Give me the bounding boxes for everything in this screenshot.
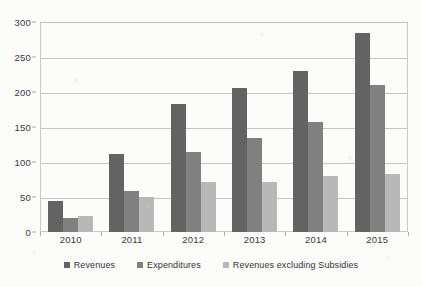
bar-chart: 050100150200250300 201020112012201320142… [0,0,422,287]
legend-label: Revenues excluding Subsidies [233,260,358,270]
y-tick-mark [32,57,36,58]
bars-layer [40,22,408,232]
legend-label: Expenditures [147,260,201,270]
bar-group-2015 [347,22,408,232]
bar-2010-revenues[interactable] [48,201,63,233]
legend-swatch-icon [223,262,229,268]
y-tick-label: 150 [15,122,31,133]
bar-group-2011 [101,22,162,232]
bar-2015-expenditures[interactable] [370,85,385,232]
y-tick-mark [32,22,36,23]
y-tick-label: 100 [15,157,31,168]
x-tick-mark [285,232,286,236]
y-tick-label: 0 [26,227,31,238]
y-tick-mark [32,197,36,198]
chart-legend: RevenuesExpendituresRevenues excluding S… [0,260,422,270]
bar-2011-revenues-excluding-subsidies[interactable] [139,197,154,232]
x-tick-mark [347,232,348,236]
x-tick-label-2010: 2010 [40,234,101,245]
bar-2014-expenditures[interactable] [308,122,323,232]
x-tick-mark [408,232,409,236]
x-tick-label-2015: 2015 [347,234,408,245]
bar-2013-expenditures[interactable] [247,138,262,232]
legend-item-revenues-excluding-subsidies[interactable]: Revenues excluding Subsidies [223,260,358,270]
bar-2010-expenditures[interactable] [63,218,78,232]
y-tick-mark [32,162,36,163]
bar-2012-revenues-excluding-subsidies[interactable] [201,182,216,232]
x-tick-label-2013: 2013 [224,234,285,245]
y-tick-label: 50 [20,192,31,203]
legend-label: Revenues [74,260,115,270]
bar-2013-revenues[interactable] [232,88,247,232]
y-tick-mark [32,127,36,128]
bar-2012-expenditures[interactable] [186,152,201,233]
y-tick-mark [32,232,36,233]
legend-item-revenues[interactable]: Revenues [64,260,115,270]
bar-2011-revenues[interactable] [109,154,124,232]
y-tick-label: 300 [15,17,31,28]
bar-group-2010 [40,22,101,232]
bar-group-2014 [285,22,346,232]
bar-2015-revenues-excluding-subsidies[interactable] [385,174,400,232]
y-tick-label: 250 [15,52,31,63]
bar-2014-revenues[interactable] [293,71,308,232]
bar-2013-revenues-excluding-subsidies[interactable] [262,182,277,232]
y-tick-label: 200 [15,87,31,98]
y-tick-mark [32,92,36,93]
bar-2011-expenditures[interactable] [124,191,139,232]
x-tick-mark [40,232,41,236]
x-tick-mark [101,232,102,236]
x-tick-mark [163,232,164,236]
x-tick-mark [224,232,225,236]
bar-2015-revenues[interactable] [355,33,370,233]
bar-group-2012 [163,22,224,232]
legend-swatch-icon [137,262,143,268]
bar-2012-revenues[interactable] [171,104,186,232]
x-tick-label-2011: 2011 [101,234,162,245]
legend-swatch-icon [64,262,70,268]
bar-group-2013 [224,22,285,232]
bar-2010-revenues-excluding-subsidies[interactable] [78,216,93,232]
legend-item-expenditures[interactable]: Expenditures [137,260,201,270]
y-axis: 050100150200250300 [0,22,36,232]
x-tick-label-2014: 2014 [285,234,346,245]
x-tick-label-2012: 2012 [163,234,224,245]
bar-2014-revenues-excluding-subsidies[interactable] [323,176,338,232]
